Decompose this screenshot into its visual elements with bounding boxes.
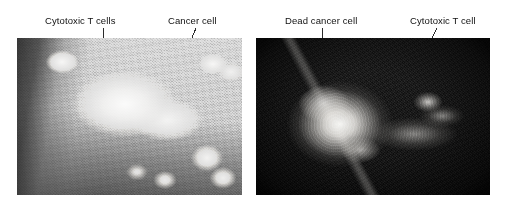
label-dead-cancer-cell: Dead cancer cell: [285, 15, 357, 26]
label-cancer-cell: Cancer cell: [168, 15, 217, 26]
micrograph-panel-right: [256, 38, 490, 195]
label-cytotoxic-t-cells: Cytotoxic T cells: [45, 15, 116, 26]
label-cytotoxic-t-cell: Cytotoxic T cell: [410, 15, 476, 26]
micrograph-panel-left: [17, 38, 242, 195]
micrograph-grain-overlay-left: [17, 38, 242, 195]
micrograph-figure: Cytotoxic T cells Cancer cell Dead cance…: [0, 0, 516, 224]
micrograph-grain-overlay-right: [256, 38, 490, 195]
